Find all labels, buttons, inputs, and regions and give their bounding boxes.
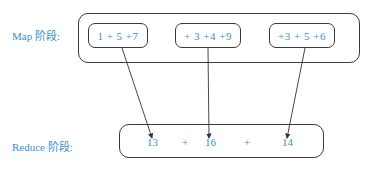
arrow-map2-to-16 [208, 48, 209, 138]
arrow-map3-to-14 [287, 48, 305, 138]
arrow-map1-to-13 [122, 48, 152, 138]
flow-arrows [0, 0, 370, 170]
